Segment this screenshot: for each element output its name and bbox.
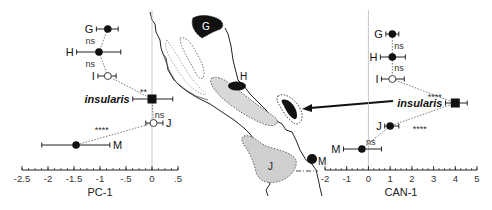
arrow-shaft xyxy=(310,101,393,108)
x-tick-label: 1 xyxy=(387,173,392,184)
map: G H J M xyxy=(150,12,393,196)
point-label: M xyxy=(331,143,340,155)
point-label: M xyxy=(113,139,122,151)
point-label: insularis xyxy=(397,97,442,109)
data-point-open xyxy=(150,120,157,127)
data-point xyxy=(358,145,366,153)
x-tick-label: -2 xyxy=(44,173,52,184)
x-tick-label: -.5 xyxy=(120,173,131,184)
data-point-open xyxy=(389,76,396,83)
x-tick-label: -1 xyxy=(96,173,104,184)
coastline-west-2 xyxy=(163,54,208,100)
region-label-m: M xyxy=(318,156,326,167)
x-tick-label: -2.5 xyxy=(14,173,30,184)
data-point-square xyxy=(148,95,157,104)
x-tick-label: 3 xyxy=(431,173,436,184)
region-label-j: J xyxy=(268,161,273,172)
data-point-square xyxy=(451,99,460,108)
x-tick-label: -1 xyxy=(342,173,350,184)
significance-label: ns xyxy=(394,41,404,51)
significance-label: ns xyxy=(85,36,95,46)
x-axis-title: PC-1 xyxy=(87,186,112,198)
point-label: I xyxy=(92,70,95,82)
significance-label: ** xyxy=(140,87,148,97)
arrow-head-icon xyxy=(302,104,312,112)
significance-label: ns xyxy=(155,110,165,120)
significance-label: ns xyxy=(366,137,376,147)
point-label: H xyxy=(66,46,74,58)
significance-label: **** xyxy=(95,125,110,135)
x-tick-label: -1.5 xyxy=(66,173,82,184)
range-outline-2 xyxy=(166,40,206,95)
point-label: G xyxy=(374,28,383,40)
range-outline-1 xyxy=(180,38,204,79)
point-label: J xyxy=(376,120,382,132)
point-label: J xyxy=(166,117,172,129)
significance-label: ns xyxy=(394,63,404,73)
data-point xyxy=(389,53,397,61)
region-label-g: G xyxy=(202,21,210,32)
data-point-open xyxy=(104,73,111,80)
significance-label: **** xyxy=(413,124,428,134)
x-tick-label: .5 xyxy=(174,173,182,184)
point-label: H xyxy=(369,51,377,63)
significance-label: ns xyxy=(85,59,95,69)
data-point xyxy=(95,48,103,56)
region-h xyxy=(228,82,246,91)
point-label: insularis xyxy=(85,93,130,105)
x-tick-label: 0 xyxy=(149,173,154,184)
point-label: G xyxy=(85,23,94,35)
region-label-h: H xyxy=(240,71,247,82)
point-label: I xyxy=(375,73,378,85)
pc1-panel: -2.5-2-1.5-1-.50.5PC-1nsns**ns****GHIins… xyxy=(14,10,182,198)
region-m xyxy=(307,154,317,164)
x-tick-label: 0 xyxy=(366,173,371,184)
x-axis-title: CAN-1 xyxy=(384,186,417,198)
data-point xyxy=(389,30,397,38)
data-point xyxy=(104,25,112,33)
x-tick-label: -2 xyxy=(321,173,329,184)
data-point xyxy=(72,141,80,149)
figure: G H J M -2.5-2-1.5-1-.50.5PC-1nsns**ns**… xyxy=(0,0,492,210)
can1-panel: -2-1012345CAN-1nsns********nsGHIinsulari… xyxy=(321,10,480,198)
x-tick-label: 4 xyxy=(453,173,458,184)
x-tick-label: 2 xyxy=(409,173,414,184)
region-j xyxy=(242,136,296,183)
data-point xyxy=(386,122,394,130)
x-tick-label: 5 xyxy=(474,173,479,184)
